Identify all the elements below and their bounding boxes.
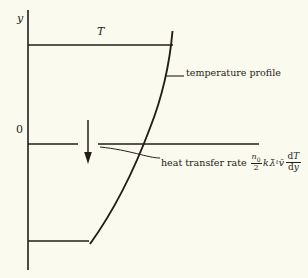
temperature-symbol-label: T — [97, 26, 104, 37]
formula-n-subscript: 0 — [257, 155, 261, 162]
formula-T-numerator: T — [293, 151, 299, 161]
figure-canvas — [0, 0, 308, 278]
y-axis-label: y — [17, 13, 23, 24]
heat-transfer-rate-leader-line — [100, 147, 160, 158]
formula-lambda-bar-symbol: λ̄ — [270, 158, 276, 168]
origin-label: 0 — [16, 124, 23, 135]
thermal-conduction-figure: y 0 T temperature profile heat transfer … — [0, 0, 308, 278]
formula-derivative-dT-dy: dT dy — [286, 152, 301, 173]
formula-n0-over-2: n0 2 — [251, 153, 262, 173]
formula-denominator-2: 2 — [253, 164, 260, 173]
temperature-profile-label: temperature profile — [186, 68, 281, 78]
formula-v-bar-symbol: v̄ — [279, 158, 284, 168]
temperature-profile-curve — [90, 31, 173, 244]
heat-flux-arrow-head — [84, 152, 92, 164]
formula-y-denominator: y — [294, 162, 299, 172]
heat-transfer-rate-annotation: heat transfer rate n0 2 kλ̄tv̄ dT dy — [161, 152, 301, 173]
heat-transfer-rate-label: heat transfer rate — [161, 158, 247, 168]
formula-k-symbol: k — [263, 158, 269, 168]
